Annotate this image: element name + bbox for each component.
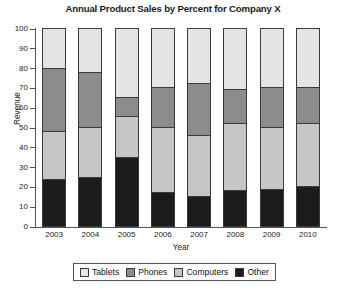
y-axis-title: Revenue (13, 69, 22, 149)
y-axis-tick (30, 29, 35, 30)
bar-segment-tablets (115, 28, 139, 98)
bar-segment-computers (296, 123, 320, 187)
legend-swatch-icon (126, 268, 135, 277)
bar-segment-computers (151, 127, 175, 193)
bar-segment-computers (223, 123, 247, 191)
y-axis-tick-label: 10 (0, 203, 28, 211)
y-axis-tick-label: 100 (0, 25, 28, 33)
bar-segment-phones (115, 97, 139, 117)
y-axis-tick (30, 207, 35, 208)
y-axis-tick-label: 0 (0, 223, 28, 231)
bar-segment-computers (115, 116, 139, 158)
bar-segment-tablets (296, 28, 320, 88)
y-axis-tick (30, 147, 35, 148)
x-axis-line (35, 227, 327, 228)
y-axis-tick (30, 227, 35, 228)
legend-label: Other (247, 268, 269, 277)
bar-segment-tablets (151, 28, 175, 88)
bar-segment-other (260, 189, 284, 227)
y-axis-tick (30, 128, 35, 129)
bar-segment-phones (187, 83, 211, 135)
y-axis-tick (30, 88, 35, 89)
bar-segment-tablets (260, 28, 284, 88)
bar-segment-phones (151, 87, 175, 128)
x-axis-tick-label: 2005 (107, 231, 147, 239)
x-axis-tick-label: 2008 (215, 231, 255, 239)
legend-swatch-icon (235, 268, 244, 277)
y-axis-tick (30, 48, 35, 49)
y-axis-tick-label: 90 (0, 45, 28, 53)
bar-segment-tablets (42, 28, 66, 69)
chart-legend: TabletsPhonesComputersOther (73, 263, 276, 281)
chart-figure: Annual Product Sales by Percent for Comp… (0, 0, 346, 290)
legend-label: Phones (138, 268, 167, 277)
bar-stack (187, 29, 211, 227)
legend-swatch-icon (80, 268, 89, 277)
x-axis-tick-label: 2004 (70, 231, 110, 239)
y-axis-tick (30, 108, 35, 109)
bar-segment-other (42, 179, 66, 227)
legend-swatch-icon (174, 268, 183, 277)
x-axis-tick-label: 2003 (34, 231, 74, 239)
y-axis-tick (30, 68, 35, 69)
legend-label: Tablets (92, 268, 119, 277)
bar-stack (296, 29, 320, 227)
bar-segment-tablets (223, 28, 247, 90)
y-axis-tick-label: 20 (0, 183, 28, 191)
x-axis-tick-label: 2009 (252, 231, 292, 239)
bar-segment-computers (42, 131, 66, 181)
x-axis-tick-label: 2010 (288, 231, 328, 239)
bar-segment-phones (296, 87, 320, 124)
y-axis-tick (30, 187, 35, 188)
bar-segment-computers (187, 135, 211, 197)
legend-item: Tablets (80, 268, 119, 277)
bar-segment-computers (260, 127, 284, 190)
bar-segment-tablets (78, 28, 102, 73)
y-axis-tick-label: 30 (0, 164, 28, 172)
x-axis-title: Year (36, 243, 326, 252)
bar-stack (223, 29, 247, 227)
legend-item: Computers (174, 268, 228, 277)
bar-segment-other (78, 177, 102, 228)
bar-segment-other (151, 192, 175, 227)
bar-stack (42, 29, 66, 227)
bar-segment-phones (78, 72, 102, 128)
bar-segment-other (115, 157, 139, 227)
chart-title: Annual Product Sales by Percent for Comp… (0, 3, 346, 14)
x-axis-tick-label: 2007 (179, 231, 219, 239)
plot-area (36, 29, 326, 227)
bar-stack (260, 29, 284, 227)
bar-segment-phones (260, 87, 284, 128)
bar-segment-tablets (187, 28, 211, 84)
bar-segment-phones (42, 68, 66, 132)
bar-stack (78, 29, 102, 227)
bar-stack (151, 29, 175, 227)
bar-segment-other (187, 196, 211, 227)
legend-label: Computers (186, 268, 228, 277)
x-axis-tick-label: 2006 (143, 231, 183, 239)
bar-segment-other (223, 190, 247, 227)
legend-item: Phones (126, 268, 167, 277)
legend-item: Other (235, 268, 269, 277)
bar-segment-phones (223, 89, 247, 124)
bar-segment-computers (78, 127, 102, 178)
bar-stack (115, 29, 139, 227)
y-axis-tick (30, 167, 35, 168)
bar-segment-other (296, 186, 320, 227)
